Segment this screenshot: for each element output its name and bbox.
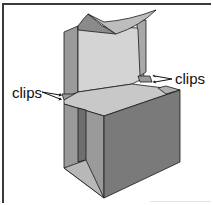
right-clip-arrows (0, 0, 213, 205)
right-arrow-lower (155, 79, 172, 82)
figure-frame: clips clips (0, 0, 213, 205)
right-arrow-upper (155, 76, 172, 79)
right-arrowhead-lower (153, 81, 157, 84)
